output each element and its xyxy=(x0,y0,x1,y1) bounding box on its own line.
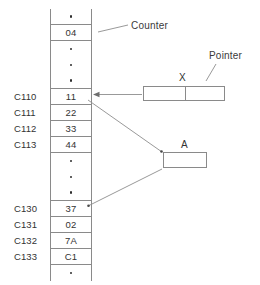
ellipsis-dot-icon xyxy=(70,160,73,163)
memory-cell-c130: 37 xyxy=(51,201,91,217)
address-label-c130: C130 xyxy=(14,201,48,217)
ellipsis-dot-icon xyxy=(70,48,73,51)
a-box-caption: A xyxy=(181,140,188,150)
memory-cell-ellipsis xyxy=(51,169,91,185)
a-box xyxy=(163,152,207,168)
ellipsis-dot-icon xyxy=(70,15,73,18)
memory-pointer-diagram: C110 C111 C112 C113 C130 C131 C132 C133 … xyxy=(0,0,260,285)
memory-cell-c111: 22 xyxy=(51,105,91,121)
address-label-c111: C111 xyxy=(14,105,48,121)
memory-cell-ellipsis xyxy=(51,185,91,201)
ellipsis-dot-icon xyxy=(70,79,73,82)
x-pointer-box xyxy=(143,86,225,101)
memory-cell-ellipsis xyxy=(51,57,91,73)
address-label-c112: C112 xyxy=(14,121,48,137)
x-box-caption: X xyxy=(179,73,186,83)
ellipsis-dot-icon xyxy=(70,191,73,194)
counter-label: Counter xyxy=(131,21,168,31)
memory-cell-c133: C1 xyxy=(51,249,91,265)
address-label-c131: C131 xyxy=(14,217,48,233)
x-box-divider xyxy=(185,87,186,100)
memory-column: 04 11 22 33 44 37 xyxy=(50,9,92,281)
address-label-c133: C133 xyxy=(14,249,48,265)
memory-cell-ellipsis xyxy=(51,265,91,281)
address-label-c132: C132 xyxy=(14,233,48,249)
ellipsis-dot-icon xyxy=(70,272,73,275)
counter-leader-line xyxy=(98,25,128,32)
a-to-c130-line xyxy=(88,169,162,206)
ellipsis-dot-icon xyxy=(70,176,73,179)
c110-to-a-line xyxy=(88,100,162,152)
memory-cell-c132: 7A xyxy=(51,233,91,249)
memory-cell-ellipsis xyxy=(51,153,91,169)
memory-cell-ellipsis xyxy=(51,73,91,89)
memory-cell-ellipsis xyxy=(51,9,91,25)
x-to-c110-arrowhead xyxy=(93,92,100,97)
memory-cell-ellipsis xyxy=(51,41,91,57)
ellipsis-dot-icon xyxy=(70,64,73,67)
memory-cell-c110: 11 xyxy=(51,89,91,105)
memory-cell-c112: 33 xyxy=(51,121,91,137)
memory-cell-c131: 02 xyxy=(51,217,91,233)
pointer-leader-line xyxy=(206,64,216,81)
memory-cell-c113: 44 xyxy=(51,137,91,153)
address-label-c110: C110 xyxy=(14,89,48,105)
pointer-label: Pointer xyxy=(209,51,242,61)
memory-cell-counter: 04 xyxy=(51,25,91,41)
address-label-c113: C113 xyxy=(14,137,48,153)
